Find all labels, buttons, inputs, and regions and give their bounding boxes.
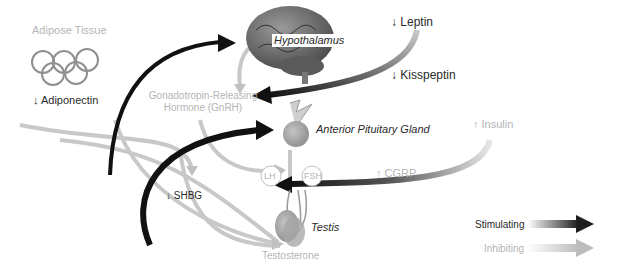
- label-hypothalamus: Hypothalamus: [272, 34, 346, 47]
- pituitary-gland-icon: [283, 100, 312, 147]
- label-lh: LH: [264, 170, 276, 183]
- adipose-cells-icon: [32, 49, 98, 85]
- label-testosterone: Testosterone: [262, 249, 319, 262]
- legend-inhibiting-arrow: [528, 239, 594, 257]
- label-gnrh: Gonadotropin-Releasing Hormone (GnRH): [140, 90, 266, 114]
- legend-stimulating-arrow: [528, 215, 594, 233]
- label-adiponectin: ↓ Adiponectin: [33, 94, 98, 107]
- label-adipose-tissue: Adipose Tissue: [32, 24, 107, 37]
- legend-inhibiting-label: Inhibiting: [484, 242, 524, 255]
- label-insulin: ↑ Insulin: [473, 118, 513, 131]
- label-anterior-pituitary: Anterior Pituitary Gland: [316, 123, 430, 136]
- label-fsh: FSH: [304, 170, 322, 183]
- label-testis: Testis: [311, 221, 339, 234]
- label-shbg: ↓ SHBG: [166, 189, 202, 202]
- legend-stimulating-label: Stimulating: [475, 218, 524, 231]
- label-kisspeptin: ↓ Kisspeptin: [391, 69, 456, 82]
- testis-icon: [275, 190, 306, 247]
- label-cgrp: ↑ CGRP: [376, 167, 416, 180]
- label-leptin: ↓ Leptin: [391, 16, 433, 29]
